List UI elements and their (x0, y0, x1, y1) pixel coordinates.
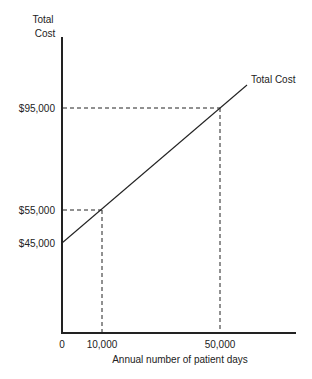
x-tick-50000: 50,000 (205, 339, 236, 350)
x-tick-0: 0 (59, 339, 65, 350)
x-tick-10000: 10,000 (87, 339, 118, 350)
y-label-line2: Cost (35, 28, 56, 39)
cost-chart: Total Cost $95,000 $55,000 $45,000 0 10,… (0, 0, 312, 379)
y-tick-55000: $55,000 (19, 205, 56, 216)
line-label: Total Cost (251, 74, 296, 85)
x-axis-label: Annual number of patient days (112, 354, 248, 365)
y-tick-95000: $95,000 (19, 103, 56, 114)
y-tick-45000: $45,000 (19, 238, 56, 249)
total-cost-line (62, 85, 247, 243)
y-label-line1: Total (32, 14, 53, 25)
